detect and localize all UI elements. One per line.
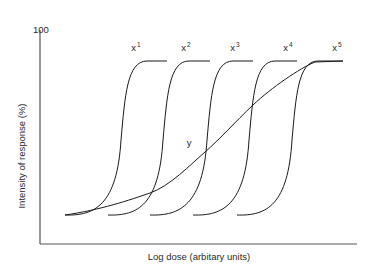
curve-label-base: x — [283, 42, 288, 53]
curve-x3-label: x3 — [230, 41, 239, 53]
curve-y-label: y — [187, 137, 192, 148]
curve-label-base: x — [332, 42, 337, 53]
x-axis-label: Log dose (arbitary units) — [148, 251, 250, 262]
curve-x5 — [237, 61, 343, 215]
curve-label-exponent: 1 — [137, 41, 141, 48]
curve-label-base: x — [131, 42, 136, 53]
curve-x5-label: x5 — [332, 41, 341, 53]
curve-x2 — [108, 61, 210, 215]
curve-x2-label: x2 — [181, 41, 190, 53]
curve-label-exponent: 2 — [187, 41, 191, 48]
curve-x1-label: x1 — [131, 41, 140, 53]
curves-group — [65, 61, 343, 215]
y-axis-label: Intensity of response (%) — [16, 103, 27, 208]
curve-label-exponent: 4 — [289, 41, 293, 48]
curve-label-base: x — [230, 42, 235, 53]
curve-label-base: x — [181, 42, 186, 53]
curve-label-exponent: 5 — [338, 41, 342, 48]
y-tick-100: 100 — [33, 24, 49, 35]
curve-y — [65, 61, 343, 215]
curve-x4-label: x4 — [283, 41, 292, 53]
curve-label-exponent: 3 — [236, 41, 240, 48]
curve-label-base: y — [187, 137, 192, 148]
